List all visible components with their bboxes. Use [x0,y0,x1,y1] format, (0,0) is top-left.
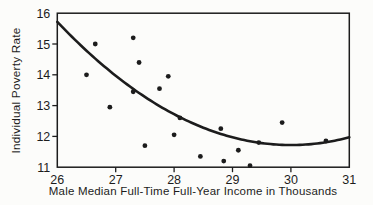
data-point [248,163,253,168]
x-axis-title: Male Median Full-Time Full-Year Income i… [28,184,358,198]
data-point [131,35,136,40]
data-point [280,120,285,125]
y-tick-label: 14 [36,68,50,82]
data-point [256,140,261,145]
data-point [172,132,177,137]
scatter-figure: 262728293031111213141516 Individual Pove… [0,0,373,205]
data-point [131,89,136,94]
data-point [218,126,223,131]
data-point [221,159,226,164]
data-point [324,139,329,144]
data-point [143,143,148,148]
y-tick-label: 15 [36,38,50,52]
data-point [166,74,171,79]
data-point [84,72,89,77]
data-point [236,148,241,153]
chart-canvas: 262728293031111213141516 [0,0,373,205]
data-point [178,116,183,121]
y-tick-label: 11 [37,161,50,175]
data-point [93,42,98,47]
fit-curve [57,22,349,145]
data-point [137,60,142,65]
y-axis-title: Individual Poverty Rate [9,23,24,159]
data-point [157,86,162,91]
data-point [107,105,112,110]
y-tick-label: 13 [36,99,50,113]
y-tick-label: 16 [36,7,50,21]
y-tick-label: 12 [36,130,50,144]
data-point [198,154,203,159]
